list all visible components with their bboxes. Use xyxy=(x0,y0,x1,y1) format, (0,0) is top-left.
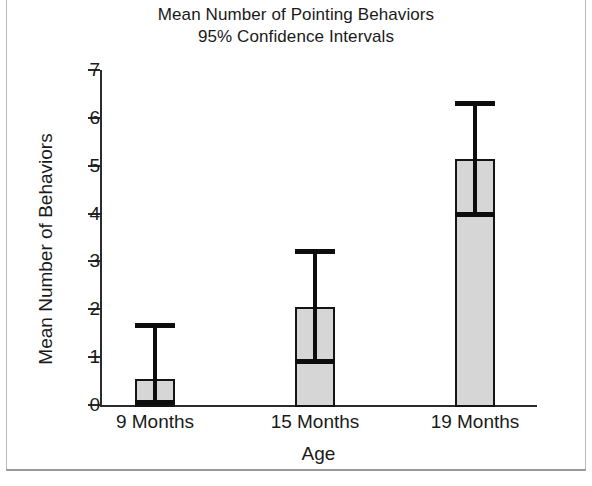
y-axis-label: Mean Number of Behaviors xyxy=(35,99,57,399)
y-axis-tick-label: 3 xyxy=(56,251,100,270)
y-axis-tick-label: 1 xyxy=(56,347,100,366)
errorbar-stem xyxy=(153,323,157,405)
y-axis-tick-label: 5 xyxy=(56,156,100,175)
errorbar-stem xyxy=(473,101,477,217)
y-axis-tick-label: 4 xyxy=(56,204,100,223)
plot-area: 01234567 9 Months15 Months19 Months Mean… xyxy=(0,0,592,486)
errorbar-cap-lower xyxy=(295,359,335,364)
y-axis-tick-label: 7 xyxy=(56,60,100,79)
errorbar-cap-upper xyxy=(135,323,175,328)
errorbar-cap-upper xyxy=(295,249,335,254)
y-axis-line xyxy=(100,70,102,407)
y-axis-tick-label: 6 xyxy=(56,108,100,127)
y-axis-tick-label: 2 xyxy=(56,299,100,318)
x-axis-label: Age xyxy=(100,443,537,465)
x-axis-tick-label: 19 Months xyxy=(400,411,550,433)
x-axis-tick-label: 9 Months xyxy=(80,411,230,433)
errorbar-cap-lower xyxy=(455,212,495,217)
errorbar-stem xyxy=(313,249,317,364)
x-axis-tick-label: 15 Months xyxy=(240,411,390,433)
errorbar-cap-upper xyxy=(455,101,495,106)
chart-figure: Mean Number of Pointing Behaviors 95% Co… xyxy=(0,0,592,486)
errorbar-cap-lower xyxy=(135,400,175,405)
